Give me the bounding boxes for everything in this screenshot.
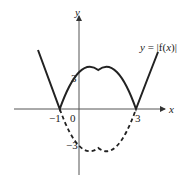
x-axis-label: x	[168, 103, 174, 115]
curve-label: y = |f(x)|	[139, 41, 177, 54]
tick-neg3y: −3	[66, 139, 78, 151]
tick-3x: 3	[135, 112, 141, 124]
tick-0: 0	[70, 112, 76, 124]
y-axis-label: y	[74, 6, 80, 18]
abs-curve	[38, 50, 158, 109]
graph: y x y = |f(x)| −1 0 3 3 −3	[0, 0, 182, 179]
tick-3y: 3	[71, 72, 77, 84]
tick-neg1: −1	[49, 112, 61, 124]
